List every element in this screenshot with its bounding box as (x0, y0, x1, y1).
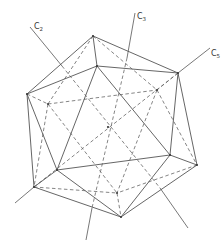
c3-axis-outer-bottom (86, 208, 92, 240)
symmetry-axes (15, 13, 210, 240)
hidden-edges (27, 36, 197, 217)
vertices (26, 35, 198, 218)
c5-label: C5 (211, 49, 221, 59)
c2-label: C2 (34, 22, 43, 32)
c5-axis-outer (178, 48, 210, 73)
c2-axis-outer (30, 27, 62, 66)
c3-label: C3 (137, 12, 147, 22)
c2-axis-outer-bottom (160, 188, 188, 228)
c3-axis-inner (92, 58, 127, 208)
c5-axis-outer-bottom (15, 187, 34, 203)
axis-labels: C2 C3 C5 (34, 12, 221, 59)
visible-edges (27, 36, 197, 217)
icosahedron-diagram: C2 C3 C5 (0, 0, 224, 242)
c2-axis-inner (62, 66, 160, 188)
